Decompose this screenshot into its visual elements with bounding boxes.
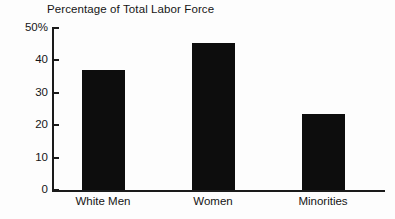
x-axis-label-minorities: Minorities xyxy=(263,195,383,207)
bar-chart-figure: Percentage of Total Labor Force 50%40302… xyxy=(0,0,395,219)
y-axis-tick-label-text: 30 xyxy=(35,86,48,98)
bar-women xyxy=(192,43,235,190)
y-axis-tick-mark xyxy=(52,157,59,159)
y-axis-tick-label: 20 xyxy=(0,118,48,132)
bar-minorities xyxy=(302,114,345,190)
y-axis-tick-label-text: 0 xyxy=(42,183,48,195)
x-axis-label-women: Women xyxy=(153,195,273,207)
y-axis-line xyxy=(52,28,54,192)
y-axis-tick-mark xyxy=(52,27,59,29)
y-axis-tick-mark xyxy=(52,59,59,61)
y-axis-tick-mark xyxy=(52,92,59,94)
y-axis-tick-label-text: 50% xyxy=(25,21,48,33)
y-axis-tick-label: 30 xyxy=(0,86,48,100)
x-axis-label-white-men: White Men xyxy=(43,195,163,207)
bar-white-men xyxy=(82,70,125,190)
x-axis-line xyxy=(52,190,385,192)
y-axis-tick-mark xyxy=(52,189,59,191)
y-axis-tick-mark xyxy=(52,124,59,126)
y-axis-tick-label: 50% xyxy=(0,21,48,35)
y-axis-tick-label: 40 xyxy=(0,53,48,67)
y-axis-tick-label-text: 20 xyxy=(35,118,48,130)
y-axis-tick-label-text: 40 xyxy=(35,53,48,65)
y-axis-tick-label: 0 xyxy=(0,183,48,197)
y-axis-tick-label-text: 10 xyxy=(35,151,48,163)
y-axis-tick-label: 10 xyxy=(0,151,48,165)
chart-title: Percentage of Total Labor Force xyxy=(47,3,214,15)
